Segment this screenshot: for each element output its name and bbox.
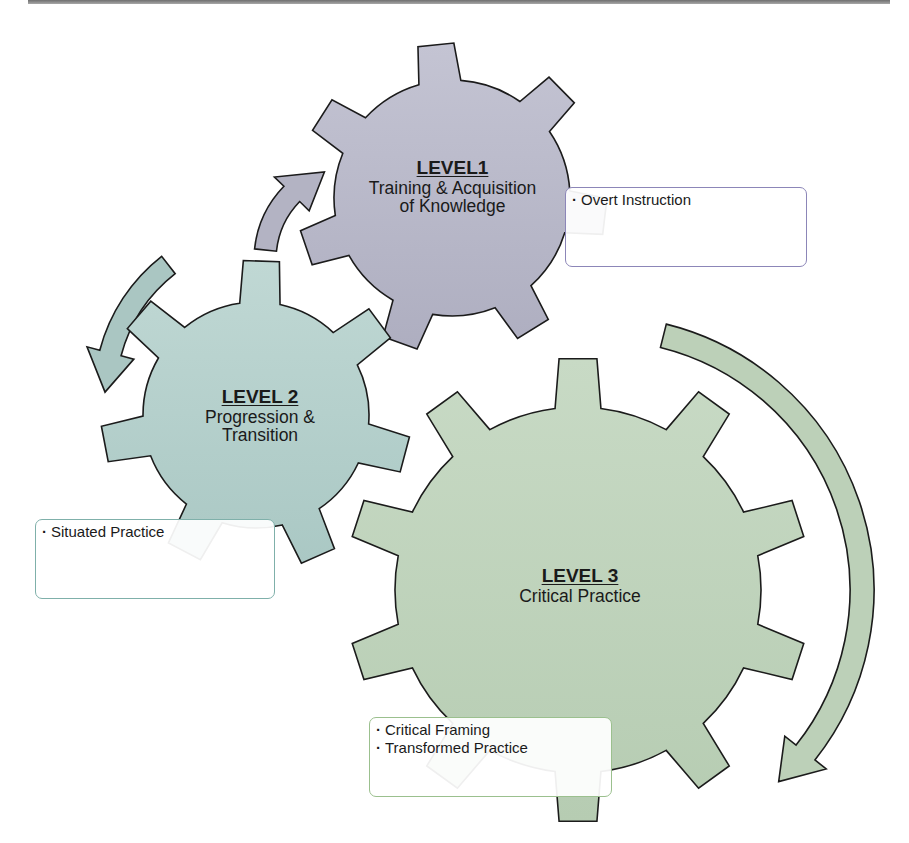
callout-level3: Critical Framing Transformed Practice — [369, 717, 612, 797]
callout-item: Overt Instruction — [572, 191, 800, 209]
level1-description-line1: Training & Acquisition — [330, 179, 575, 198]
callout-level1: Overt Instruction — [565, 187, 807, 267]
level2-title: LEVEL 2 — [175, 387, 345, 408]
level2-description-line1: Progression & — [175, 408, 345, 427]
level1-title: LEVEL1 — [330, 158, 575, 179]
callout-item: Transformed Practice — [376, 739, 605, 757]
level3-description-line1: Critical Practice — [490, 587, 670, 606]
gear-label-level3: LEVEL 3 Critical Practice — [490, 566, 670, 605]
gear-label-level1: LEVEL1 Training & Acquisition of Knowled… — [330, 158, 575, 216]
level3-title: LEVEL 3 — [490, 566, 670, 587]
callout-item: Critical Framing — [376, 721, 605, 739]
level2-description-line2: Transition — [175, 426, 345, 445]
gear-label-level2: LEVEL 2 Progression & Transition — [175, 387, 345, 445]
callout-item: Situated Practice — [42, 523, 268, 541]
level1-description-line2: of Knowledge — [330, 197, 575, 216]
callout-level2: Situated Practice — [35, 519, 275, 599]
